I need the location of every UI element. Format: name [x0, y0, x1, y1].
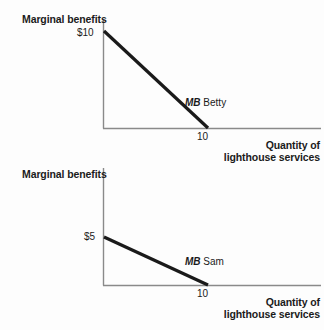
betty-y-tick-label: $10: [77, 27, 94, 39]
betty-curve-label-symbol: MB: [185, 97, 201, 108]
sam-y-tick-label: $5: [84, 231, 95, 243]
sam-x-axis-title: Quantity of lighthouse services: [188, 296, 320, 320]
betty-x-axis-title-line2: lighthouse services: [224, 151, 320, 163]
sam-curve-label-name: Sam: [203, 256, 224, 267]
sam-curve-label: MB Sam: [185, 256, 224, 268]
sam-x-axis-title-line1: Quantity of: [266, 296, 320, 308]
betty-mb-curve: [104, 31, 208, 128]
marginal-benefit-figure: Marginal benefits $10 10 Quantity of lig…: [0, 0, 324, 330]
chart-panel-betty: Marginal benefits $10 10 Quantity of lig…: [0, 0, 324, 165]
betty-x-axis-title-line1: Quantity of: [266, 139, 320, 151]
betty-curve-label: MB Betty: [185, 97, 226, 109]
sam-curve-label-symbol: MB: [185, 256, 201, 267]
sam-y-axis-title: Marginal benefits: [22, 168, 107, 180]
sam-x-axis-title-line2: lighthouse services: [224, 308, 320, 320]
betty-x-axis-title: Quantity of lighthouse services: [188, 139, 320, 163]
betty-curve-label-name: Betty: [203, 97, 226, 108]
betty-y-axis-title: Marginal benefits: [22, 13, 107, 25]
